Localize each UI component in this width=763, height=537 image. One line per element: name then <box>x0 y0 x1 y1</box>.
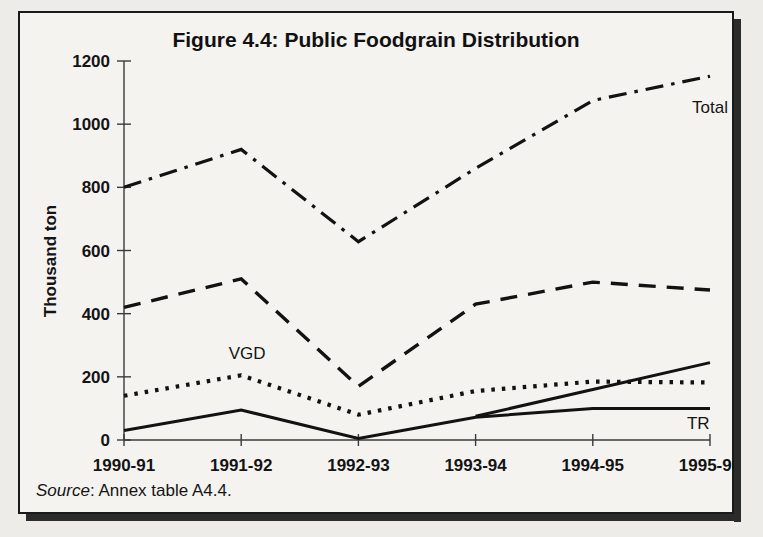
source-label: Source <box>36 481 90 500</box>
frame-shadow-bottom <box>26 514 741 521</box>
y-tick-label: 800 <box>82 178 110 197</box>
y-tick-label: 200 <box>82 368 110 387</box>
y-tick-label: 400 <box>82 305 110 324</box>
series-inline-labels: TotalFFWVGDFFETR <box>229 98 734 433</box>
series-lines <box>124 76 710 438</box>
y-tick-label: 1000 <box>72 115 110 134</box>
x-tick-label: 1993-94 <box>444 456 507 475</box>
chart-title: Figure 4.4: Public Foodgrain Distributio… <box>172 28 579 51</box>
series-line-ffw <box>124 279 710 386</box>
source-note: Source: Annex table A4.4. <box>36 481 232 501</box>
series-line-total <box>124 76 710 242</box>
y-tick-label: 0 <box>101 431 110 450</box>
x-axis-tick-labels: 1990-911991-921992-931993-941994-951995-… <box>93 456 734 475</box>
series-label-tr: TR <box>687 414 710 433</box>
figure-root: Figure 4.4: Public Foodgrain Distributio… <box>0 0 763 537</box>
line-chart: Figure 4.4: Public Foodgrain Distributio… <box>18 11 734 514</box>
x-tick-label: 1991-92 <box>210 456 272 475</box>
x-tick-label: 1990-91 <box>93 456 155 475</box>
series-line-tr <box>124 408 710 438</box>
y-tick-label: 600 <box>82 242 110 261</box>
frame-shadow-right <box>734 19 741 522</box>
x-tick-label: 1994-95 <box>562 456 624 475</box>
y-axis-tick-labels: 020040060080010001200 <box>72 52 110 450</box>
source-text: : Annex table A4.4. <box>90 481 232 500</box>
series-label-vgd: VGD <box>229 344 266 363</box>
y-axis-title: Thousand ton <box>41 205 60 317</box>
y-tick-label: 1200 <box>72 52 110 71</box>
x-tick-label: 1992-93 <box>327 456 389 475</box>
x-tick-label: 1995-96 <box>679 456 734 475</box>
series-label-total: Total <box>692 98 728 117</box>
